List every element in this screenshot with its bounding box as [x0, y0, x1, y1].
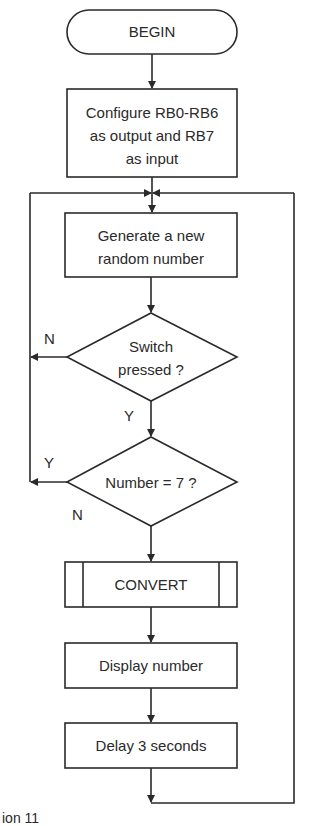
flowchart-diagram: BEGIN Configure RB0-RB6 as output and RB…: [0, 0, 312, 826]
delay-label: Delay 3 seconds: [96, 737, 207, 754]
begin-label: BEGIN: [129, 23, 176, 40]
display-label: Display number: [99, 657, 203, 674]
configure-line-1: Configure RB0-RB6: [86, 104, 219, 121]
switch-pressed-decision: Switch pressed ?: [67, 313, 237, 401]
convert-label: CONVERT: [114, 576, 187, 593]
configure-line-2: as output and RB7: [90, 127, 214, 144]
switch-line-1: Switch: [129, 338, 173, 355]
number-equals-7-decision: Number = 7 ?: [67, 437, 237, 526]
number-no-label: N: [72, 506, 83, 523]
figure-caption-fragment: ion 11: [2, 810, 39, 826]
generate-line-1: Generate a new: [98, 227, 205, 244]
switch-line-2: pressed ?: [118, 361, 184, 378]
display-process-box: Display number: [65, 643, 237, 688]
convert-subroutine-box: CONVERT: [65, 562, 237, 607]
configure-process-box: Configure RB0-RB6 as output and RB7 as i…: [67, 89, 237, 177]
generate-process-box: Generate a new random number: [65, 213, 237, 277]
begin-terminator: BEGIN: [67, 10, 237, 54]
delay-process-box: Delay 3 seconds: [65, 723, 237, 768]
configure-line-3: as input: [126, 150, 179, 167]
number-decision-label: Number = 7 ?: [105, 474, 196, 491]
generate-line-2: random number: [98, 250, 204, 267]
number-yes-label: Y: [44, 454, 54, 471]
switch-yes-label: Y: [124, 407, 134, 424]
switch-no-label: N: [44, 330, 55, 347]
